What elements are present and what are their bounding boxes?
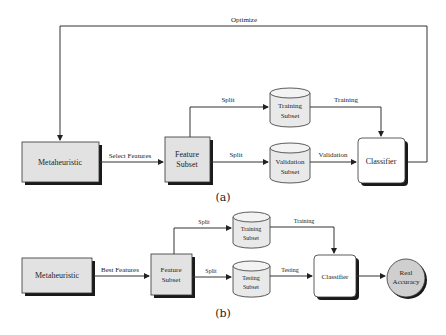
select-features-label: Select Features [109, 152, 152, 160]
training-subset-label-1: Training [278, 102, 302, 110]
testing-subset-node-b: Testing Subset [233, 261, 270, 297]
training-label-b: Training [294, 218, 314, 224]
split-top-edge-b [174, 228, 231, 254]
metaheuristic-node-b: Metaheuristic [22, 258, 95, 296]
classifier-label: Classifier [366, 157, 397, 166]
classifier-label-b: Classifier [322, 273, 349, 281]
metaheuristic-label: Metaheuristic [38, 158, 82, 167]
training-subset-label-2: Subset [281, 112, 300, 120]
feature-subset-node-b: Feature Subset [151, 254, 195, 298]
training-label: Training [334, 96, 358, 104]
validation-subset-label-2: Subset [281, 168, 300, 176]
feature-subset-label-b-2: Subset [162, 276, 181, 284]
classifier-node-b: Classifier [314, 255, 359, 300]
split-bottom-label-b: Split [205, 268, 217, 274]
training-subset-label-b-2: Subset [243, 235, 259, 241]
feature-subset-node: Feature Subset [165, 137, 213, 185]
training-edge-b [270, 227, 334, 253]
testing-subset-label-b-2: Subset [243, 284, 259, 290]
testing-subset-label-b-1: Testing [242, 275, 260, 281]
feature-subset-label-2: Subset [176, 160, 198, 169]
metaheuristic-node: Metaheuristic [22, 142, 102, 185]
validation-label: Validation [319, 151, 348, 159]
figure: Optimize Metaheuristic Select Features F… [0, 0, 446, 335]
metaheuristic-label-b: Metaheuristic [35, 271, 79, 280]
best-features-label: Best Features [101, 266, 139, 274]
training-subset-label-b-1: Training [241, 226, 261, 232]
diagram-b: Metaheuristic Best Features Feature Subs… [22, 212, 427, 320]
training-edge [310, 107, 381, 136]
diagram-canvas: Optimize Metaheuristic Select Features F… [0, 0, 446, 335]
classifier-node: Classifier [358, 138, 408, 186]
split-top-label-b: Split [198, 219, 210, 225]
split-top-label: Split [221, 96, 234, 104]
validation-subset-node: Validation Subset [270, 143, 310, 183]
split-top-edge [190, 107, 268, 137]
real-accuracy-label-1: Real [400, 269, 413, 277]
training-subset-node: Training Subset [270, 88, 310, 127]
testing-label-b: Testing [281, 267, 299, 273]
training-subset-node-b: Training Subset [233, 212, 270, 248]
caption-a: (a) [215, 191, 230, 204]
real-accuracy-node: Real Accuracy [387, 259, 427, 299]
feature-subset-label-b-1: Feature [161, 266, 182, 274]
diagram-a: Optimize Metaheuristic Select Features F… [22, 16, 427, 204]
optimize-label: Optimize [231, 16, 257, 24]
feature-subset-label-1: Feature [175, 150, 199, 159]
split-bottom-label: Split [229, 151, 242, 159]
caption-b: (b) [215, 307, 231, 320]
real-accuracy-label-2: Accuracy [393, 278, 420, 286]
validation-subset-label-1: Validation [276, 158, 305, 166]
